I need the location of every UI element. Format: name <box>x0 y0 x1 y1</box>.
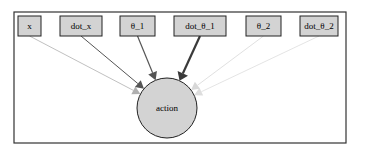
node-label: dot_θ_1 <box>185 21 214 31</box>
target-node-action[interactable]: action <box>137 78 197 138</box>
node-label: x <box>27 21 32 31</box>
source-node-dot-x[interactable]: dot_x <box>60 16 102 36</box>
node-label: θ_1 <box>131 21 144 31</box>
source-node-dot-theta-1[interactable]: dot_θ_1 <box>174 16 226 36</box>
source-node-theta-2[interactable]: θ_2 <box>246 16 281 36</box>
node-label: dot_θ_2 <box>304 21 333 31</box>
action-node-label: action <box>156 103 178 113</box>
source-node-theta-1[interactable]: θ_1 <box>120 16 155 36</box>
node-label: θ_2 <box>257 21 270 31</box>
source-node-dot-theta-2[interactable]: dot_θ_2 <box>300 16 338 36</box>
node-label: dot_x <box>71 21 92 31</box>
diagram-canvas: xdot_xθ_1dot_θ_1θ_2dot_θ_2 action <box>0 0 369 153</box>
source-node-x[interactable]: x <box>18 16 41 36</box>
